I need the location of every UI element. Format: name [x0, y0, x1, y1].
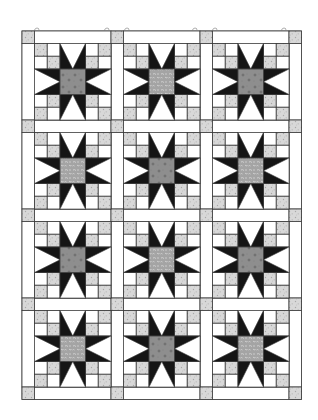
- four-patch-white: [86, 285, 99, 298]
- sashing-vertical: [22, 311, 35, 388]
- four-patch-white: [264, 107, 277, 120]
- four-patch-print: [187, 196, 200, 209]
- four-patch-white: [175, 133, 188, 146]
- four-patch-white: [86, 374, 99, 387]
- four-patch-print: [175, 95, 188, 108]
- four-patch-print: [47, 323, 60, 336]
- four-patch-white: [213, 323, 226, 336]
- four-patch-white: [47, 222, 60, 235]
- four-patch-white: [98, 323, 111, 336]
- four-patch-white: [187, 184, 200, 197]
- four-patch-print: [264, 95, 277, 108]
- four-patch-white: [136, 44, 149, 57]
- four-patch-white: [35, 95, 48, 108]
- cornerstone: [111, 387, 124, 400]
- four-patch-print: [86, 145, 99, 158]
- star-center-dotted: [60, 69, 86, 95]
- four-patch-white: [136, 133, 149, 146]
- four-patch-white: [124, 234, 137, 247]
- four-patch-white: [98, 184, 111, 197]
- four-patch-print: [86, 56, 99, 69]
- sashing-horizontal: [124, 31, 201, 44]
- four-patch-print: [35, 196, 48, 209]
- four-patch-print: [276, 133, 289, 146]
- sashing-vertical: [289, 311, 302, 388]
- four-patch-print: [187, 285, 200, 298]
- star-center-dotted: [149, 336, 175, 362]
- four-patch-print: [276, 222, 289, 235]
- four-patch-white: [98, 234, 111, 247]
- sashing-horizontal: [213, 31, 290, 44]
- four-patch-white: [175, 44, 188, 57]
- four-patch-white: [35, 362, 48, 375]
- four-patch-print: [213, 107, 226, 120]
- four-patch-print: [98, 196, 111, 209]
- four-patch-white: [187, 362, 200, 375]
- four-patch-print: [47, 362, 60, 375]
- cornerstone: [22, 387, 35, 400]
- four-patch-white: [276, 323, 289, 336]
- four-patch-print: [124, 222, 137, 235]
- four-patch-print: [264, 273, 277, 286]
- four-patch-print: [124, 374, 137, 387]
- four-patch-print: [98, 285, 111, 298]
- four-patch-white: [136, 107, 149, 120]
- four-patch-white: [187, 56, 200, 69]
- four-patch-white: [264, 196, 277, 209]
- sashing-vertical: [111, 222, 124, 299]
- four-patch-white: [264, 311, 277, 324]
- cornerstone: [200, 120, 213, 133]
- sashing-horizontal: [124, 209, 201, 222]
- four-patch-print: [213, 222, 226, 235]
- four-patch-print: [47, 56, 60, 69]
- four-patch-white: [35, 323, 48, 336]
- four-patch-print: [86, 234, 99, 247]
- cornerstone: [200, 31, 213, 44]
- four-patch-print: [276, 285, 289, 298]
- four-patch-print: [276, 311, 289, 324]
- four-patch-print: [225, 95, 238, 108]
- four-patch-print: [98, 44, 111, 57]
- four-patch-print: [86, 95, 99, 108]
- four-patch-white: [225, 311, 238, 324]
- four-patch-white: [35, 273, 48, 286]
- cornerstone: [289, 298, 302, 311]
- cornerstone: [111, 31, 124, 44]
- four-patch-print: [86, 323, 99, 336]
- four-patch-print: [187, 107, 200, 120]
- quilt-layer: [22, 28, 302, 400]
- star-center-dotted: [60, 247, 86, 273]
- four-patch-print: [175, 234, 188, 247]
- four-patch-white: [124, 184, 137, 197]
- four-patch-white: [187, 323, 200, 336]
- sashing-vertical: [22, 222, 35, 299]
- four-patch-white: [175, 222, 188, 235]
- four-patch-white: [47, 44, 60, 57]
- star-center-floral: [60, 158, 86, 184]
- four-patch-white: [225, 285, 238, 298]
- sashing-vertical: [22, 133, 35, 210]
- star-center-floral: [149, 69, 175, 95]
- four-patch-white: [264, 222, 277, 235]
- star-center-floral: [60, 336, 86, 362]
- sashing-vertical: [289, 222, 302, 299]
- four-patch-white: [47, 196, 60, 209]
- four-patch-print: [136, 362, 149, 375]
- four-patch-print: [35, 44, 48, 57]
- four-patch-print: [124, 107, 137, 120]
- four-patch-white: [213, 95, 226, 108]
- four-patch-print: [124, 311, 137, 324]
- four-patch-print: [47, 273, 60, 286]
- four-patch-white: [35, 56, 48, 69]
- hanging-mark: [281, 28, 286, 31]
- four-patch-white: [264, 44, 277, 57]
- sashing-horizontal: [213, 298, 290, 311]
- four-patch-print: [187, 222, 200, 235]
- four-patch-white: [136, 222, 149, 235]
- four-patch-white: [175, 374, 188, 387]
- cornerstone: [200, 209, 213, 222]
- four-patch-white: [98, 95, 111, 108]
- four-patch-print: [264, 323, 277, 336]
- star-center-floral: [238, 336, 264, 362]
- quilt-diagram: [0, 0, 318, 420]
